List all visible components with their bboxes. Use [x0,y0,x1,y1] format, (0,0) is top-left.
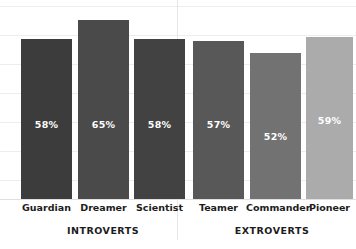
bar-value-teamer: 57% [193,120,244,130]
group-label-introverts: INTROVERTS [43,224,163,238]
x-axis-labels: Guardian Dreamer Scientist Teamer Comman… [0,201,356,217]
group-axis-labels: INTROVERTS EXTROVERTS [0,224,356,240]
bar-guardian[interactable]: 58% [21,39,72,199]
x-label-commander: Commander [246,201,305,215]
bar-dreamer[interactable]: 65% [78,20,129,199]
bar-value-guardian: 58% [21,120,72,130]
x-label-teamer: Teamer [193,201,244,215]
bar-value-dreamer: 65% [78,120,129,130]
bar-value-scientist: 58% [134,120,185,130]
group-label-extroverts: EXTROVERTS [212,224,332,238]
x-label-guardian: Guardian [21,201,72,215]
bar-value-commander: 52% [250,132,301,142]
x-label-pioneer: Pioneer [305,201,354,215]
bar-teamer[interactable]: 57% [193,41,244,199]
x-label-scientist: Scientist [132,201,187,215]
bar-pioneer[interactable]: 59% [306,37,353,199]
gridline-baseline [0,199,356,200]
plot-area: 58% 65% 58% 57% 52% 59% [0,0,356,199]
bar-chart: 58% 65% 58% 57% 52% 59% Guardian Dreamer… [0,0,356,249]
bar-value-pioneer: 59% [306,116,353,126]
x-label-dreamer: Dreamer [78,201,129,215]
bar-commander[interactable]: 52% [250,53,301,199]
bar-scientist[interactable]: 58% [134,39,185,199]
